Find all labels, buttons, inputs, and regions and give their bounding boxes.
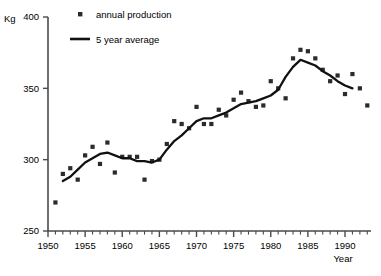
legend-label-annual-production: annual production [96,9,172,20]
data-point [142,178,146,182]
y-tick-label-250: 250 [23,225,39,236]
x-tick-label-1985: 1985 [297,240,318,251]
data-point [113,170,117,174]
x-tick-label-1965: 1965 [149,240,170,251]
data-point [335,73,339,77]
data-point [83,153,87,157]
production-chart: 250300350400 195019551960196519701975198… [0,0,381,276]
chart-plot-area: 250300350400 195019551960196519701975198… [23,11,371,251]
data-point [254,105,258,109]
x-axis-label: Year [333,253,352,264]
average-line [63,60,353,181]
y-tick-label-300: 300 [23,154,39,165]
data-point [172,119,176,123]
data-point [53,200,57,204]
data-point [261,103,265,107]
y-axis-label: Kg [4,13,16,24]
data-point [98,162,102,166]
data-point [194,105,198,109]
data-point [269,79,273,83]
x-tick-label-1960: 1960 [112,240,133,251]
data-point [358,86,362,90]
legend-marker-annual-production [78,12,82,16]
x-axis-ticks: 195019551960196519701975198019851990 [37,231,355,251]
x-tick-label-1970: 1970 [186,240,207,251]
data-point [306,49,310,53]
data-point [343,92,347,96]
data-point [232,98,236,102]
data-point [298,48,302,52]
data-point [350,72,354,76]
data-point [105,140,109,144]
data-point [90,145,94,149]
data-point [217,108,221,112]
y-axis-ticks: 250300350400 [23,11,48,236]
y-tick-label-350: 350 [23,83,39,94]
legend-label-5-year-average: 5 year average [96,34,159,45]
data-point [291,56,295,60]
data-point [313,56,317,60]
data-point [202,122,206,126]
data-point [180,122,184,126]
x-tick-label-1950: 1950 [37,240,58,251]
data-point [284,96,288,100]
data-point [165,142,169,146]
data-point [365,103,369,107]
data-point [76,178,80,182]
data-point [68,166,72,170]
data-point [61,172,65,176]
legend: annual production 5 year average [70,9,172,45]
x-tick-label-1980: 1980 [260,240,281,251]
data-point [239,91,243,95]
y-tick-label-400: 400 [23,11,39,22]
x-tick-label-1955: 1955 [75,240,96,251]
data-point [328,79,332,83]
data-point [209,122,213,126]
x-tick-label-1990: 1990 [334,240,355,251]
x-tick-label-1975: 1975 [223,240,244,251]
data-point [135,155,139,159]
